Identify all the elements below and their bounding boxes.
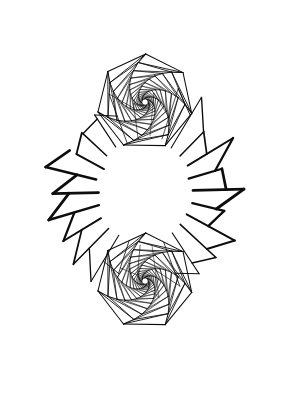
- margin-mask: [0, 0, 291, 17]
- upper-cone-point: [142, 99, 147, 104]
- figure-background: [0, 0, 291, 414]
- margin-mask: [279, 0, 291, 414]
- lower-cone-point: [142, 278, 147, 283]
- margin-mask: [0, 387, 291, 414]
- margin-mask: [0, 0, 14, 414]
- figure-root: Conformal tiling with two cone-point sin…: [0, 0, 291, 414]
- tiling-diagram: [0, 0, 291, 414]
